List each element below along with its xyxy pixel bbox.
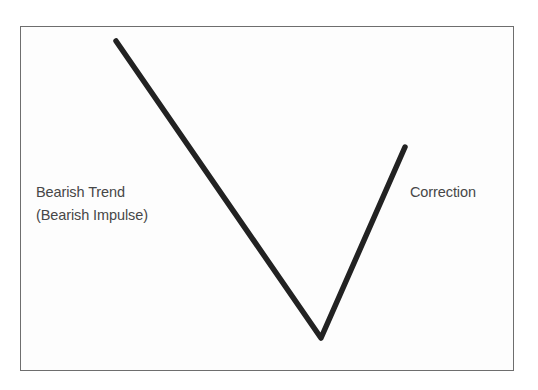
bearish-trend-label-line2: (Bearish Impulse) <box>36 204 148 227</box>
bearish-trend-label-line1: Bearish Trend <box>36 181 148 204</box>
bearish-trend-label: Bearish Trend (Bearish Impulse) <box>36 181 148 227</box>
correction-label-text: Correction <box>410 181 476 204</box>
bearish-impulse-and-correction-line <box>116 41 405 338</box>
correction-label: Correction <box>410 181 476 204</box>
